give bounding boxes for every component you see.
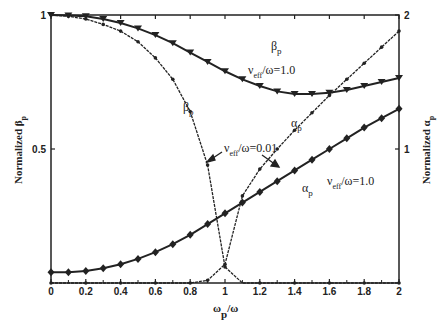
right-axis-ticks: 12 xyxy=(395,10,410,155)
chart: 00.20.40.60.811.21.41.61.82 0.51 12 ωp/ω… xyxy=(0,0,446,330)
x-tick-label: 1.6 xyxy=(322,286,336,297)
right-y-tick-label: 1 xyxy=(404,144,410,155)
annotation-arrow-to-alpha xyxy=(262,155,279,167)
annotation-arrow-to-beta xyxy=(207,152,222,162)
x-axis-ticks: 00.20.40.60.811.21.41.61.82 xyxy=(48,15,402,297)
annotation-alpha-p-nu1: αp xyxy=(302,181,313,198)
right-y-axis-label: Normalized αp xyxy=(420,115,436,184)
annotation-nu-eff-001: νeff/ω=0.01 xyxy=(224,141,277,158)
x-tick-label: 1.8 xyxy=(357,286,371,297)
left-y-tick-label: 1 xyxy=(40,10,46,21)
x-tick-label: 0.8 xyxy=(183,286,197,297)
annotation-beta-p-nu1: βp xyxy=(271,39,282,56)
annotation-nu-eff-1-alpha: νeff/ω=1.0 xyxy=(327,174,374,191)
annotation-beta-p-nu001: βp xyxy=(183,100,194,117)
x-tick-label: 1.4 xyxy=(288,286,302,297)
x-tick-label: 2 xyxy=(396,286,402,297)
x-tick-label: 1 xyxy=(222,286,228,297)
series-0 xyxy=(47,12,403,97)
x-tick-label: 1.2 xyxy=(253,286,267,297)
series-2 xyxy=(48,105,403,276)
x-tick-label: 0 xyxy=(48,286,54,297)
left-y-axis-label: Normalized βp xyxy=(12,115,28,184)
annotation-nu-eff-1-beta: νeff/ω=1.0 xyxy=(248,63,295,80)
x-tick-label: 0.6 xyxy=(148,286,162,297)
right-y-tick-label: 2 xyxy=(404,10,410,21)
left-y-tick-label: 0.5 xyxy=(32,144,46,155)
annotation-alpha-p-nu001: αp xyxy=(291,116,302,133)
series-3 xyxy=(49,29,401,285)
x-tick-label: 0.2 xyxy=(79,286,93,297)
x-axis-label: ωp/ω xyxy=(213,302,238,320)
x-tick-label: 0.4 xyxy=(114,286,128,297)
